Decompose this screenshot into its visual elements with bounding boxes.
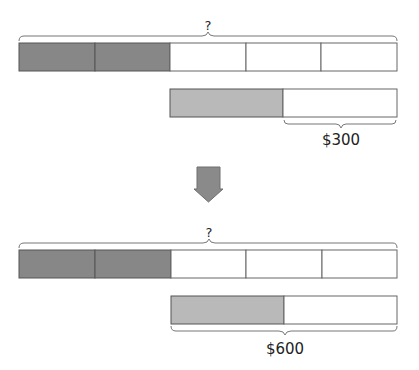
segment-shaded	[19, 250, 95, 278]
top-bar-2	[19, 250, 397, 278]
segment-shaded	[19, 43, 95, 71]
segment-empty	[284, 296, 397, 324]
segment-empty	[322, 250, 397, 278]
top-brace-1	[19, 32, 397, 41]
bottom-brace-1	[284, 120, 396, 128]
amount-label-1: $300	[322, 131, 360, 149]
panel-2: ? $600	[19, 225, 397, 358]
segment-empty	[246, 43, 321, 71]
down-arrow-icon	[194, 167, 223, 202]
panel-1: ? $300	[19, 18, 397, 149]
bottom-bar-1	[170, 89, 397, 117]
amount-label-2: $600	[266, 340, 304, 358]
segment-shaded	[170, 89, 283, 117]
bottom-brace-2	[171, 326, 397, 335]
segment-empty	[171, 250, 246, 278]
question-label-1: ?	[205, 18, 212, 33]
segment-shaded	[171, 296, 284, 324]
tape-diagram: ? $300 ?	[0, 0, 419, 370]
segment-empty	[321, 43, 397, 71]
segment-empty	[283, 89, 397, 117]
top-bar-1	[19, 43, 397, 71]
segment-empty	[170, 43, 246, 71]
segment-shaded	[95, 43, 170, 71]
segment-shaded	[95, 250, 171, 278]
bottom-bar-2	[171, 296, 397, 324]
segment-empty	[246, 250, 322, 278]
question-label-2: ?	[206, 225, 213, 240]
top-brace-2	[19, 239, 397, 248]
